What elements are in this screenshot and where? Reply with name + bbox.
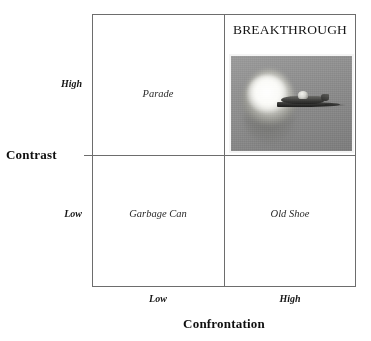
jet-exhaust-trail: [325, 104, 346, 106]
jet-tail: [321, 94, 329, 101]
contrast-axis-tick: [84, 155, 92, 156]
quadrant-label-old-shoe: Old Shoe: [224, 208, 356, 220]
y-axis-tick-high: High: [20, 78, 82, 89]
quadrant-label-garbage-can: Garbage Can: [92, 208, 224, 220]
vapor-cone-highlight: [247, 75, 287, 113]
quadrant-label-parade: Parade: [92, 88, 224, 100]
contrast-confrontation-matrix: Parade BREAKTHROUGH Garbage Can Old Shoe…: [0, 0, 371, 341]
x-axis-tick-low: Low: [92, 293, 224, 304]
quadrant-label-breakthrough: BREAKTHROUGH: [224, 22, 356, 38]
jet-canopy: [298, 91, 309, 99]
x-axis-tick-high: High: [224, 293, 356, 304]
y-axis-tick-low: Low: [20, 208, 82, 219]
y-axis-title: Contrast: [6, 147, 80, 163]
jet-breaking-sound-barrier-photo: [231, 56, 352, 151]
matrix-vertical-divider: [224, 14, 225, 287]
breakthrough-photo-frame: [229, 54, 354, 153]
x-axis-title: Confrontation: [92, 316, 356, 332]
matrix-horizontal-divider: [92, 155, 356, 156]
